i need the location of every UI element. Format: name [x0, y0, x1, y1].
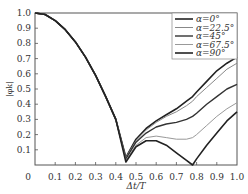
y-tick-label: 0.9 [17, 23, 32, 33]
line-chart: 00.10.20.30.40.50.60.70.80.91.0 0.10.20.… [0, 0, 248, 194]
y-axis-label: |φk| [5, 81, 14, 97]
x-tick-label: 0.9 [210, 172, 225, 182]
legend: α=0°α=22.5°α=45°α=67.5°α=90° [172, 13, 237, 59]
x-tick-label: 0.8 [189, 172, 204, 182]
x-tick-label: 0.3 [88, 172, 103, 182]
x-tick-label: 1.0 [230, 172, 245, 182]
x-tick-label: 0.6 [149, 172, 164, 182]
legend-entry: α=90° [196, 48, 226, 58]
y-tick-label: 0.2 [17, 130, 31, 140]
y-tick-label: 0.8 [17, 38, 32, 48]
y-tick-label: 0.7 [17, 54, 32, 64]
y-tick-label: 0.5 [17, 84, 32, 94]
y-tick-label: 0.3 [17, 114, 32, 124]
x-tick-label: 0.4 [109, 172, 124, 182]
y-tick-label: 0.6 [17, 69, 32, 79]
x-tick-label: 0.2 [68, 172, 82, 182]
x-tick-label: 0.1 [48, 172, 62, 182]
y-tick-label: 0.1 [17, 145, 31, 155]
x-tick-label: 0.7 [169, 172, 184, 182]
y-tick-label: 1.0 [17, 8, 32, 18]
y-tick-label: 0.4 [17, 99, 32, 109]
x-axis-label: Δt/T [125, 181, 146, 191]
x-tick-label: 0 [25, 172, 31, 182]
